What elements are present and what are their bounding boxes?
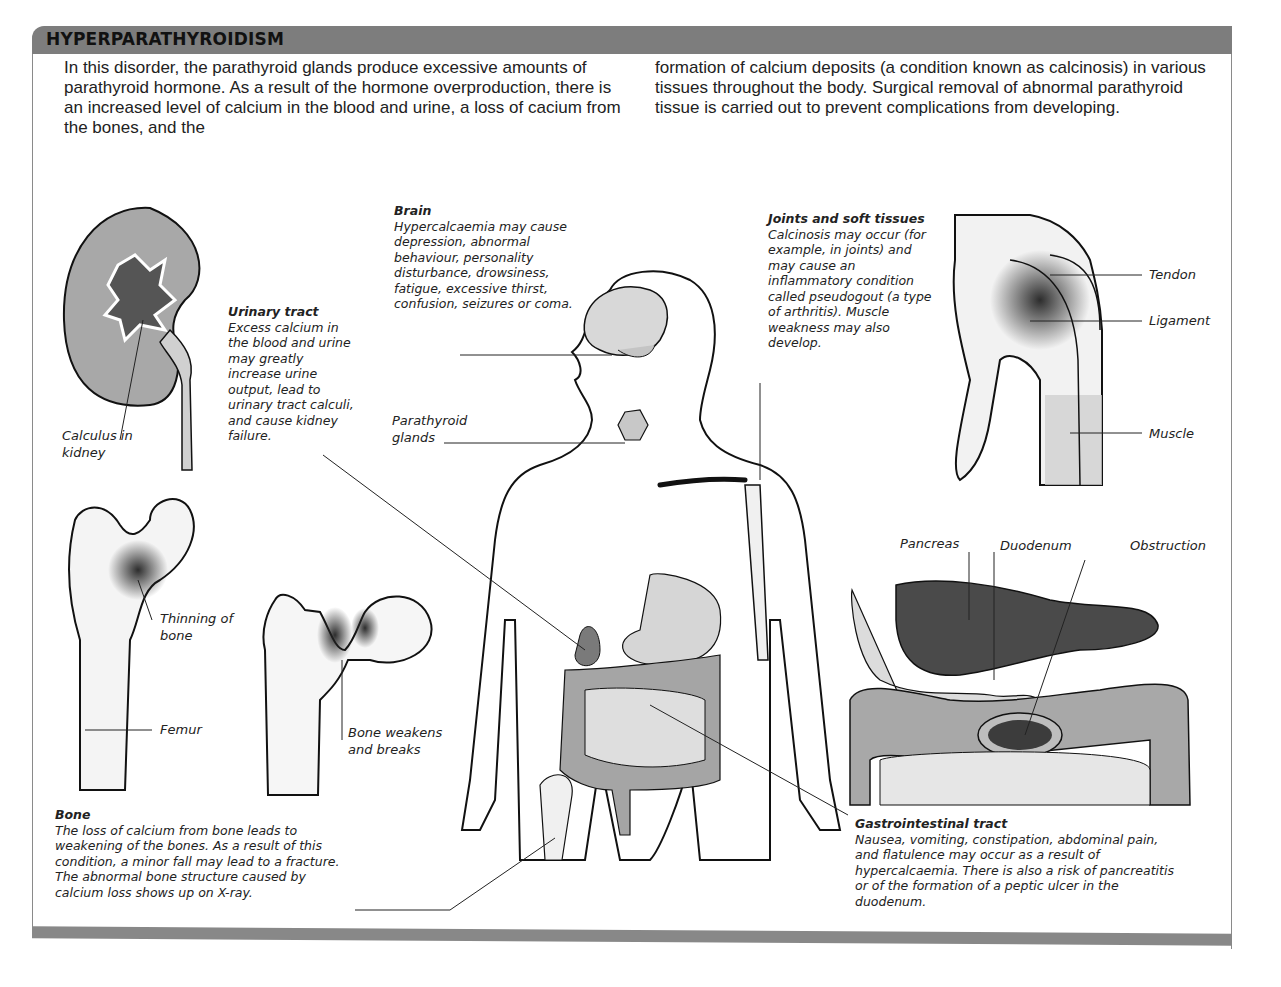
label-thinning: Thinning of bone — [160, 610, 240, 644]
caption-brain-title: Brain — [394, 203, 584, 219]
caption-urinary-title: Urinary tract — [228, 304, 356, 320]
label-muscle: Muscle — [1149, 425, 1194, 442]
caption-joints: Joints and soft tissues Calcinosis may o… — [768, 211, 938, 351]
caption-brain-text: Hypercalcaemia may cause depression, abn… — [394, 219, 573, 312]
caption-bone-title: Bone — [55, 807, 355, 823]
label-tendon: Tendon — [1149, 266, 1196, 283]
caption-gi: Gastrointestinal tract Nausea, vomiting,… — [855, 816, 1175, 909]
caption-joints-text: Calcinosis may occur (for example, in jo… — [768, 227, 932, 351]
caption-joints-title: Joints and soft tissues — [768, 211, 938, 227]
human-body-illustration — [462, 271, 840, 860]
caption-brain: Brain Hypercalcaemia may cause depressio… — [394, 203, 584, 312]
caption-bone: Bone The loss of calcium from bone leads… — [55, 807, 355, 900]
pancreas-gi-illustration — [850, 552, 1190, 805]
caption-bone-text: The loss of calcium from bone leads to w… — [55, 823, 339, 900]
femur-fracture-illustration — [263, 595, 431, 795]
label-obstruction: Obstruction — [1130, 537, 1206, 554]
caption-urinary-text: Excess calcium in the blood and urine ma… — [228, 320, 354, 444]
caption-gi-text: Nausea, vomiting, constipation, abdomina… — [855, 832, 1174, 909]
label-femur: Femur — [160, 721, 202, 738]
caption-urinary: Urinary tract Excess calcium in the bloo… — [228, 304, 356, 444]
label-duodenum: Duodenum — [1000, 537, 1072, 554]
femur-thinning-illustration — [69, 499, 194, 790]
label-pancreas: Pancreas — [900, 535, 959, 552]
caption-gi-title: Gastrointestinal tract — [855, 816, 1175, 832]
label-calculus: Calculus in kidney — [62, 427, 142, 461]
label-ligament: Ligament — [1149, 312, 1210, 329]
label-parathyroid: Parathyroid glands — [392, 412, 472, 446]
label-bone-breaks: Bone weakens and breaks — [348, 724, 458, 758]
shoulder-joint-illustration — [954, 215, 1142, 485]
